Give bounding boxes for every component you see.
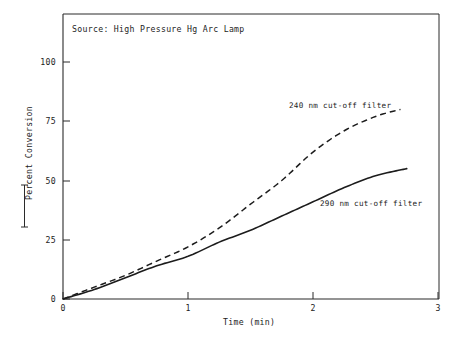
x-tick-label-3: 3 [431,303,445,313]
x-tick-label-1: 1 [181,303,195,313]
x-tick-label-2: 2 [306,303,320,313]
plot-frame [63,14,439,299]
y-axis-ticks [63,62,70,299]
plot-canvas [0,0,466,339]
annotation-290nm-filter: 290 nm cut-off filter [320,199,422,208]
x-axis-ticks [63,292,438,299]
x-axis-title: Time (min) [223,317,275,327]
annotation-240nm-filter: 240 nm cut-off filter [289,101,391,110]
source-note: Source: High Pressure Hg Arc Lamp [72,24,245,34]
y-axis-bracket [18,183,32,229]
y-tick-label-0: 0 [28,294,56,304]
chart-figure: Source: High Pressure Hg Arc Lamp 100 75… [0,0,466,339]
y-tick-label-25: 25 [28,235,56,245]
x-tick-label-0: 0 [56,303,70,313]
y-tick-label-100: 100 [28,57,56,67]
